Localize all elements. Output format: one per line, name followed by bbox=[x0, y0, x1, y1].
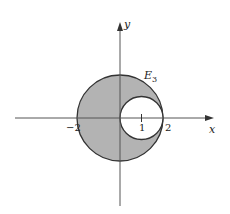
tick-label-neg2: −2 bbox=[66, 122, 81, 133]
region-diagram: y x −2 1 2 E3 bbox=[0, 0, 230, 214]
y-axis-arrow-icon bbox=[117, 22, 123, 31]
tick-label-1: 1 bbox=[139, 122, 145, 133]
y-axis-label: y bbox=[123, 18, 131, 31]
region-label: E3 bbox=[143, 69, 157, 84]
tick-label-2: 2 bbox=[165, 122, 171, 133]
x-axis-arrow-icon bbox=[205, 115, 214, 121]
x-axis-label: x bbox=[209, 123, 216, 136]
